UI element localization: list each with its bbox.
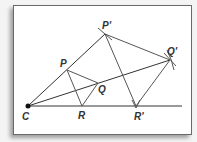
triangle-pqr-prime (105, 34, 170, 106)
label-q-prime: Q' (167, 46, 178, 57)
label-p-prime: P' (102, 20, 112, 31)
label-r-prime: R' (134, 111, 144, 122)
label-q: Q (98, 84, 106, 95)
ray-cq (28, 60, 170, 106)
center-point (26, 104, 31, 109)
label-r: R (78, 110, 86, 121)
dilation-diagram: C P Q R P' Q' R' (0, 0, 197, 142)
label-p: P (60, 58, 67, 69)
label-c: C (22, 111, 30, 122)
